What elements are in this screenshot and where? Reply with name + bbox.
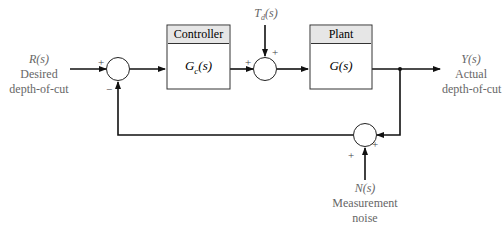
- disturbance-junction-plus-left: +: [245, 57, 251, 68]
- error-junction-plus: +: [98, 57, 104, 68]
- noise-symbol: N(s): [330, 181, 400, 196]
- input-symbol: R(s): [8, 52, 70, 67]
- noise-desc-1: Measurement: [330, 196, 400, 211]
- plant-block-title: Plant: [311, 26, 371, 44]
- output-label: Y(s) Actual depth-of-cut: [442, 52, 500, 97]
- noise-junction-plus-right: +: [372, 139, 378, 150]
- controller-transfer-function: Gc(s): [168, 58, 229, 76]
- noise-label: N(s) Measurement noise: [330, 181, 400, 226]
- output-symbol: Y(s): [442, 52, 500, 67]
- input-label: R(s) Desired depth-of-cut: [8, 52, 70, 97]
- error-junction-minus: −: [106, 84, 112, 95]
- noise-junction-plus-bottom: +: [348, 150, 354, 161]
- disturbance-label: Td(s): [248, 6, 284, 25]
- input-desc-1: Desired: [8, 67, 70, 82]
- controller-block-title: Controller: [168, 26, 229, 44]
- input-desc-2: depth-of-cut: [8, 82, 70, 97]
- disturbance-junction-plus-top: +: [272, 47, 278, 58]
- noise-desc-2: noise: [330, 211, 400, 226]
- plant-transfer-function: G(s): [311, 58, 371, 74]
- block-diagram-lines: [0, 0, 502, 226]
- output-desc-2: depth-of-cut: [442, 82, 500, 97]
- output-desc-1: Actual: [442, 67, 500, 82]
